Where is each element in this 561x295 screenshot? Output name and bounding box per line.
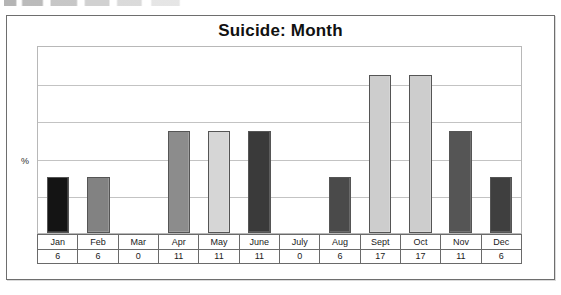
bar-slot xyxy=(320,47,360,233)
bar-slot xyxy=(119,47,159,233)
bar-slot xyxy=(441,47,481,233)
bar-slot xyxy=(78,47,118,233)
bar-slot xyxy=(239,47,279,233)
table-cell-value: 17 xyxy=(360,250,400,264)
table-cell-value: 6 xyxy=(38,250,78,264)
table-cell-month: June xyxy=(239,235,279,250)
y-axis-label: % xyxy=(21,156,29,166)
bar xyxy=(409,75,432,233)
bar xyxy=(168,131,191,233)
table-cell-value: 0 xyxy=(118,250,158,264)
bar-slot xyxy=(360,47,400,233)
table-cell-value: 6 xyxy=(78,250,118,264)
table-row-values: 660111111061717116 xyxy=(38,250,522,264)
table-cell-month: Aug xyxy=(320,235,360,250)
bar-slot xyxy=(400,47,440,233)
table-cell-month: Feb xyxy=(78,235,118,250)
table-cell-value: 6 xyxy=(320,250,360,264)
bar-slot xyxy=(199,47,239,233)
table-cell-month: Oct xyxy=(400,235,440,250)
bar xyxy=(329,177,352,233)
table-cell-value: 11 xyxy=(239,250,279,264)
table-cell-month: July xyxy=(279,235,319,250)
plot-area xyxy=(37,46,522,234)
bar xyxy=(248,131,271,233)
chart-title: Suicide: Month xyxy=(7,21,554,41)
table-cell-month: Apr xyxy=(158,235,198,250)
table-cell-value: 11 xyxy=(158,250,198,264)
bar xyxy=(369,75,392,233)
bar xyxy=(208,131,231,233)
table-cell-month: Jan xyxy=(38,235,78,250)
table-cell-value: 17 xyxy=(400,250,440,264)
table-cell-month: Dec xyxy=(481,235,521,250)
table-cell-month: May xyxy=(199,235,239,250)
bar-slot xyxy=(481,47,521,233)
bar-slot xyxy=(38,47,78,233)
scan-edge-artifact xyxy=(4,0,194,6)
table-cell-value: 11 xyxy=(441,250,481,264)
bar xyxy=(47,177,70,233)
bar xyxy=(449,131,472,233)
table-cell-value: 6 xyxy=(481,250,521,264)
bar-slot xyxy=(280,47,320,233)
table-cell-value: 11 xyxy=(199,250,239,264)
bar-series xyxy=(38,47,521,233)
table-cell-month: Sept xyxy=(360,235,400,250)
bar-slot xyxy=(159,47,199,233)
table-cell-value: 0 xyxy=(279,250,319,264)
bar xyxy=(87,177,110,233)
table-row-month-labels: JanFebMarAprMayJuneJulyAugSeptOctNovDec xyxy=(38,235,522,250)
table-cell-month: Nov xyxy=(441,235,481,250)
bar xyxy=(490,177,513,233)
data-table: JanFebMarAprMayJuneJulyAugSeptOctNovDec … xyxy=(37,234,522,264)
chart-frame: Suicide: Month % JanFebMarAprMayJuneJuly… xyxy=(6,15,555,280)
table-cell-month: Mar xyxy=(118,235,158,250)
